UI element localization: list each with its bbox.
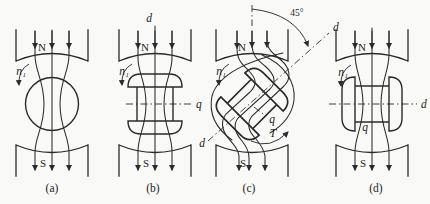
panel-b: n₁ d q N S (b) xyxy=(119,12,202,195)
panel-a: n₁ N S (a) xyxy=(16,30,88,195)
speed-label: n₁ xyxy=(119,65,129,77)
q-axis-label: q xyxy=(362,121,368,134)
panel-caption: (d) xyxy=(369,182,383,195)
speed-label: n₁ xyxy=(16,65,26,77)
panel-caption: (c) xyxy=(243,182,256,195)
panel-caption: (a) xyxy=(46,182,59,195)
s-pole-label: S xyxy=(143,157,149,169)
s-pole-label: S xyxy=(240,157,246,169)
s-pole-label: S xyxy=(40,157,46,169)
machine-diagram: n₁ N S (a) n₁ d q N S (b) xyxy=(0,0,430,204)
n-pole-label: N xyxy=(238,41,246,53)
n-pole-label: N xyxy=(141,41,149,53)
figure-canvas: n₁ N S (a) n₁ d q N S (b) xyxy=(0,0,430,204)
panel-d: n₁ d q N S (d) xyxy=(329,28,427,195)
speed-label: n₁ xyxy=(338,66,348,78)
panel-caption: (b) xyxy=(146,182,160,195)
d-axis-label: d xyxy=(146,12,152,24)
panel-c: n₁ d d q T 45° N S (c) xyxy=(199,5,339,195)
speed-label: n₁ xyxy=(216,65,226,77)
n-pole-label: N xyxy=(358,41,366,53)
angle-label: 45° xyxy=(290,8,304,18)
q-axis-label: q xyxy=(269,113,275,126)
d-axis-label: d xyxy=(421,98,427,110)
d-axis-label: d xyxy=(199,137,205,149)
q-axis-label: q xyxy=(196,98,202,111)
n-pole-label: N xyxy=(38,41,46,53)
s-pole-label: S xyxy=(360,157,366,169)
